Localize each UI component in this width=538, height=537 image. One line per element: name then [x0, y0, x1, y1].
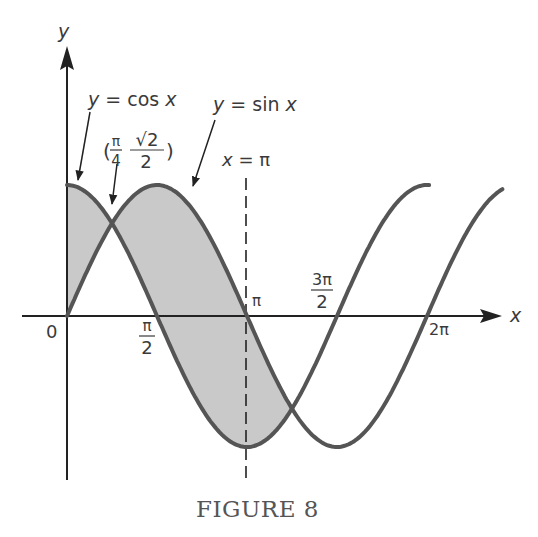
tick-label-three-half-pi: 3π 2	[311, 270, 333, 312]
figure-caption: FIGURE 8	[0, 496, 515, 522]
svg-text:2: 2	[141, 337, 152, 358]
svg-text:(: (	[103, 139, 111, 163]
svg-text:3π: 3π	[312, 270, 332, 289]
svg-text:√2: √2	[136, 129, 159, 150]
intersection-point-label: ( π 4 √2 2 )	[103, 129, 174, 172]
svg-text:π: π	[112, 133, 121, 149]
cos-label: y = cos x	[87, 88, 177, 110]
vertical-line-label: x = π	[221, 149, 270, 170]
point-arrow-icon	[112, 164, 117, 204]
tick-label-two-pi: 2π	[429, 320, 449, 339]
svg-text:2: 2	[140, 151, 151, 172]
cos-arrow-icon	[78, 112, 90, 180]
svg-text:2: 2	[316, 291, 327, 312]
tick-label-0: 0	[46, 321, 57, 342]
sin-arrow-icon	[193, 120, 215, 186]
tick-label-pi: π	[252, 292, 261, 310]
sin-label: y = sin x	[212, 93, 298, 115]
figure-8-chart: y x y = cos x y = sin x x = π ( π 4 √2 2…	[0, 0, 538, 537]
tick-label-half-pi: π 2	[139, 317, 155, 358]
y-axis-label: y	[57, 20, 70, 42]
svg-text:π: π	[142, 317, 151, 335]
svg-text:4: 4	[111, 152, 121, 170]
x-axis-label: x	[509, 304, 522, 326]
svg-text:): )	[166, 139, 174, 163]
